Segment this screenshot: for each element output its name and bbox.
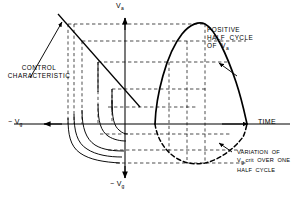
time-axis-label: TIME: [258, 118, 276, 125]
va-axis-label: Va: [116, 2, 124, 11]
neg-vg-axis-label-left: − Vg: [8, 118, 22, 127]
vg-crit-variation-label: VARIATION OFVg crit OVER ONEHALF CYCLE: [237, 148, 303, 174]
neg-vg-axis-label-bottom: − Vg: [110, 180, 124, 189]
knee-curve-family: [68, 100, 128, 163]
vg-crit-variation-leader: [219, 143, 232, 152]
control-staircase-steps: [98, 62, 112, 112]
control-characteristic-label: CONTROL CHARACTERISTIC: [2, 64, 76, 80]
positive-half-cycle-label: POSITIVEHALF CYCLEOF Va: [207, 26, 293, 52]
projection-gridlines-lower: [100, 134, 247, 163]
control-characteristic-line: [58, 14, 140, 107]
positive-half-cycle-leader: [219, 63, 237, 76]
vertical-dashed-droppers: [68, 24, 205, 163]
